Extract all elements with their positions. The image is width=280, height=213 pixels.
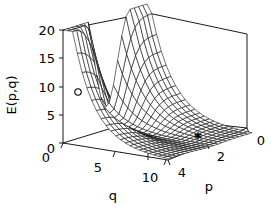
p-tick-label-0: 0 [257, 133, 265, 148]
p-tick-label-4: 4 [178, 165, 186, 180]
p-axis-title: p [205, 179, 213, 194]
q-tick-label-10: 10 [142, 170, 159, 185]
z-axis-title: E(p,q) [4, 76, 19, 115]
z-tick-label-20: 20 [38, 23, 55, 38]
z-tick-label-10: 10 [38, 80, 55, 95]
q-tick-label-0: 0 [42, 150, 50, 165]
q-tick-label-5: 5 [94, 160, 102, 175]
z-tick-label-15: 15 [38, 51, 55, 66]
plot-svg: 20 15 10 5 0 E(p,q) 0 5 10 q 4 2 0 [0, 0, 280, 213]
surface-plot-figure: 20 15 10 5 0 E(p,q) 0 5 10 q 4 2 0 [0, 0, 280, 213]
star-marker: * [194, 130, 202, 148]
z-tick-label-5: 5 [47, 108, 55, 123]
p-tick-label-2: 2 [217, 149, 225, 164]
q-axis-title: q [109, 188, 117, 203]
circle-marker [75, 89, 81, 95]
